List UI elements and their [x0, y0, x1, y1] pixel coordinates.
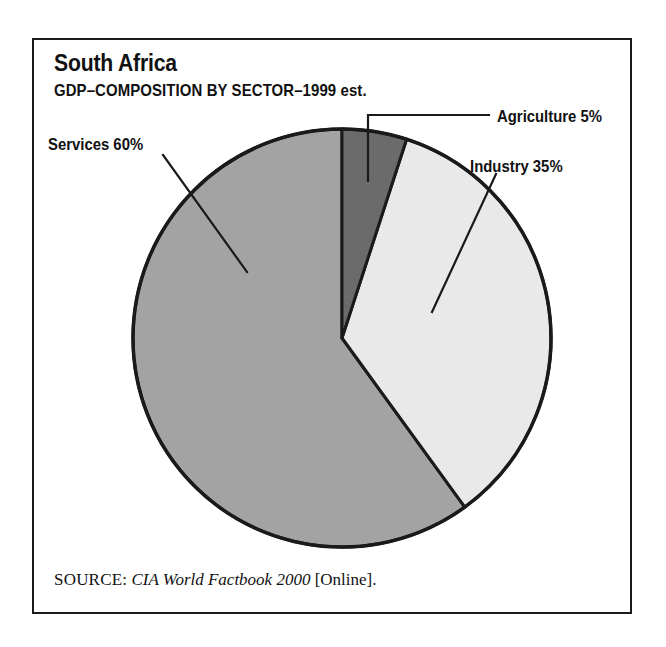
figure-container: South Africa GDP–COMPOSITION BY SECTOR–1… [0, 0, 666, 647]
slice-label-agriculture: Agriculture 5% [497, 108, 602, 126]
slice-label-industry: Industry 35% [470, 158, 563, 176]
source-suffix: [Online]. [315, 570, 377, 589]
source-note: SOURCE: CIA World Factbook 2000 [Online]… [54, 570, 377, 590]
source-title: CIA World Factbook 2000 [131, 570, 310, 589]
slice-label-services: Services 60% [48, 136, 143, 154]
pie-chart [0, 0, 666, 647]
source-label: SOURCE: [54, 570, 127, 589]
